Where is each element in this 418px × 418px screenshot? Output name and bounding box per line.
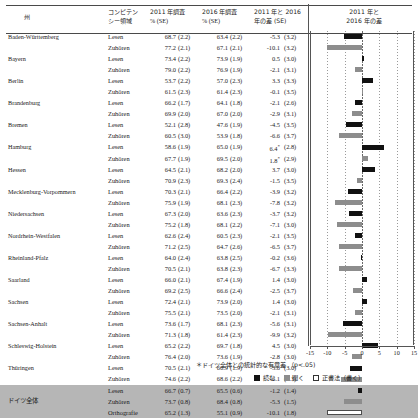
row-se-2011: (1.9)	[178, 153, 190, 164]
row-value-2016: 67.0	[202, 108, 228, 119]
chart-title-line1: 2011 年と	[316, 8, 412, 16]
chart-bar	[362, 145, 384, 150]
chart-gridline	[397, 31, 398, 345]
row-value-2011: 64.0	[150, 252, 176, 263]
row-competency-label: Lesen	[108, 186, 123, 197]
row-value-2016: 60.5	[202, 230, 228, 241]
row-value-2016: 73.5	[202, 307, 228, 318]
row-state-label: Mecklenburg-Vorpommern	[8, 186, 75, 197]
row-se-2011: (1.9)	[178, 197, 190, 208]
row-se-2016: (2.4)	[230, 285, 242, 296]
row-value-2016: 76.9	[202, 64, 228, 75]
legend-label-lesen: 読む	[263, 374, 275, 381]
row-value-2016: 53.9	[202, 130, 228, 141]
plot-left-border	[308, 4, 309, 346]
row-value-2011: 75.5	[150, 307, 176, 318]
row-se-difference: (3.2)	[284, 42, 296, 53]
row-se-difference: (3.0)	[284, 219, 296, 230]
row-se-2016: (2.3)	[230, 318, 242, 329]
row-value-2011: 66.0	[150, 274, 176, 285]
chart-bar	[346, 122, 362, 127]
row-competency-label: Zuhören	[108, 396, 130, 407]
axis-tick-label: -10	[323, 349, 331, 356]
row-se-2016: (2.3)	[230, 86, 242, 97]
row-se-2016: (1.8)	[230, 340, 242, 351]
chart-bar	[362, 89, 363, 94]
row-competency-label: Zuhören	[108, 241, 130, 252]
row-value-2016: 69.7	[202, 340, 228, 351]
row-se-2016: (2.3)	[230, 263, 242, 274]
row-state-label: Nordrhein-Westfalen	[8, 230, 60, 241]
row-value-2011: 67.3	[150, 208, 176, 219]
row-difference: -6.6	[252, 130, 280, 141]
row-se-2011: (1.8)	[178, 219, 190, 230]
chart-bar	[355, 233, 362, 238]
row-competency-label: Lesen	[108, 53, 123, 64]
row-se-difference: (3.5)	[284, 175, 296, 186]
row-value-2011: 67.7	[150, 153, 176, 164]
row-se-2016: (2.6)	[230, 241, 242, 252]
row-value-2016: 73.9	[202, 296, 228, 307]
row-state-label: ドイツ全体	[8, 396, 38, 407]
row-value-2011: 77.2	[150, 42, 176, 53]
row-value-2011: 58.6	[150, 141, 176, 152]
row-se-difference: (3.3)	[284, 75, 296, 86]
row-value-2016: 47.6	[202, 119, 228, 130]
row-competency-label: Zuhören	[108, 130, 130, 141]
chart-title-line2: 2016 年の差	[316, 17, 412, 25]
row-value-2011: 70.3	[150, 186, 176, 197]
row-se-difference: (3.6)	[284, 252, 296, 263]
row-difference: -10.1	[252, 407, 280, 418]
chart-bar	[362, 299, 367, 304]
row-value-2011: 68.7	[150, 31, 176, 42]
row-difference: -1.5	[252, 175, 280, 186]
row-competency-label: Zuhören	[108, 64, 130, 75]
row-value-2016: 64.1	[202, 97, 228, 108]
row-difference: -0.2	[252, 252, 280, 263]
row-value-2016: 67.1	[202, 42, 228, 53]
table-header: 州 コンピテン シー領域 2011 年調査 % (SE) 2016 年調査 % …	[0, 4, 418, 30]
row-value-2016: 64.7	[202, 241, 228, 252]
row-se-2016: (2.3)	[230, 230, 242, 241]
row-se-2011: (2.2)	[178, 64, 190, 75]
row-value-2016: 61.4	[202, 329, 228, 340]
row-se-2016: (1.8)	[230, 130, 242, 141]
row-difference: -9.9	[252, 329, 280, 340]
row-difference: 1.4	[252, 274, 280, 285]
chart-bar	[344, 34, 362, 39]
row-value-2016: 68.4	[202, 396, 228, 407]
row-state-label: Bremen	[8, 119, 28, 130]
row-se-2011: (1.8)	[178, 329, 190, 340]
column-header-state: 州	[24, 13, 120, 21]
column-header-2011-line2: % (SE)	[150, 17, 202, 25]
column-header-2016-line2: % (SE)	[202, 17, 254, 25]
row-se-2011: (2.2)	[178, 75, 190, 86]
row-value-2011: 66.2	[150, 97, 176, 108]
row-se-difference: (3.5)	[284, 86, 296, 97]
chart-bar	[362, 156, 368, 161]
chart-bar	[361, 255, 362, 260]
row-difference: -7.1	[252, 219, 280, 230]
row-value-2011: 73.4	[150, 53, 176, 64]
row-competency-label: Lesen	[108, 318, 123, 329]
chart-legend: 読む聞く正書法（書く）	[254, 373, 373, 382]
row-competency-label: Lesen	[108, 340, 123, 351]
row-difference: -10.1	[252, 42, 280, 53]
row-se-2016: (2.2)	[230, 186, 242, 197]
header-rule-top	[6, 5, 412, 6]
row-competency-label: Lesen	[108, 208, 123, 219]
row-se-2016: (2.3)	[230, 197, 242, 208]
row-difference: -7.8	[252, 197, 280, 208]
chart-bar	[352, 111, 362, 116]
row-se-2011: (2.2)	[178, 53, 190, 64]
chart-gridline	[345, 31, 346, 345]
row-difference: -6.7	[252, 263, 280, 274]
row-se-difference: (3.0)	[284, 53, 296, 64]
row-state-label: Berlin	[8, 75, 23, 86]
row-value-2016: 69.3	[202, 175, 228, 186]
chart-gridline	[414, 31, 415, 345]
row-state-label: Hamburg	[8, 141, 31, 152]
column-header-difference-line1: 2011 年と 2016	[254, 8, 310, 16]
row-difference: 4.5	[252, 340, 280, 351]
row-se-difference: (3.1)	[284, 318, 296, 329]
